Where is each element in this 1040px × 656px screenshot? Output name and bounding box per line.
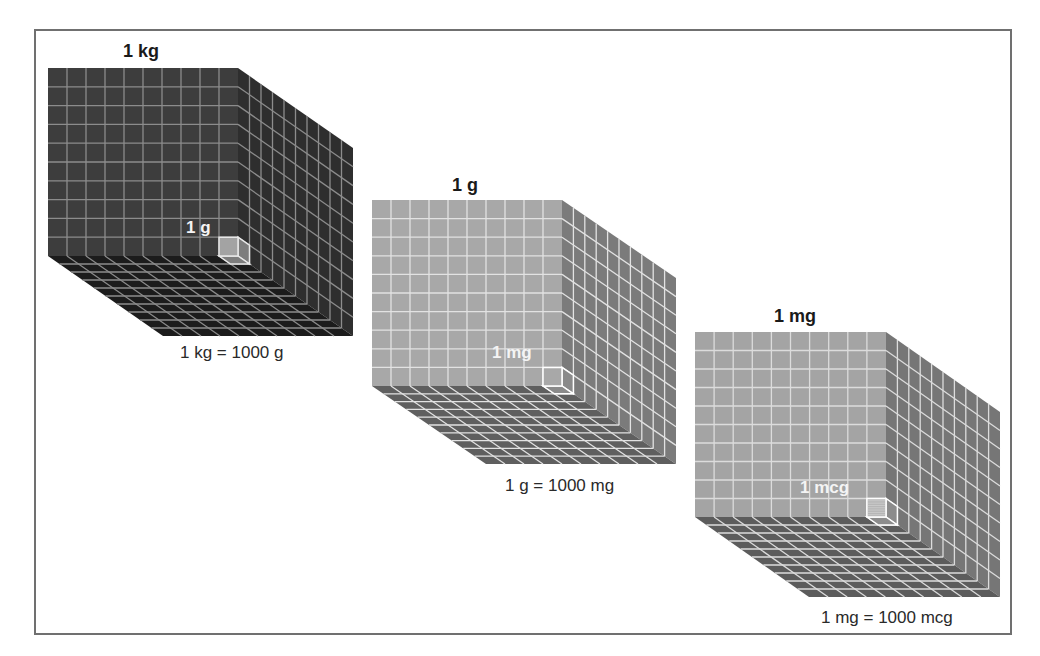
cube-g-unit-label: 1 mg: [492, 344, 532, 361]
cube-kg-unit-cube: [219, 237, 238, 256]
cube-kg-unit-label: 1 g: [186, 219, 211, 236]
cube-kg-equation: 1 kg = 1000 g: [180, 344, 284, 361]
cube-g-title: 1 g: [452, 176, 478, 194]
cube-mg-title: 1 mg: [774, 307, 816, 325]
cube-g-equation: 1 g = 1000 mg: [505, 477, 614, 494]
cube-mg-unit-label: 1 mcg: [800, 479, 849, 496]
cube-g-unit-cube: [543, 367, 562, 386]
cube-mg-equation: 1 mg = 1000 mcg: [821, 609, 953, 626]
cube-kg-title: 1 kg: [123, 42, 159, 60]
cubes-canvas: [0, 0, 1040, 656]
